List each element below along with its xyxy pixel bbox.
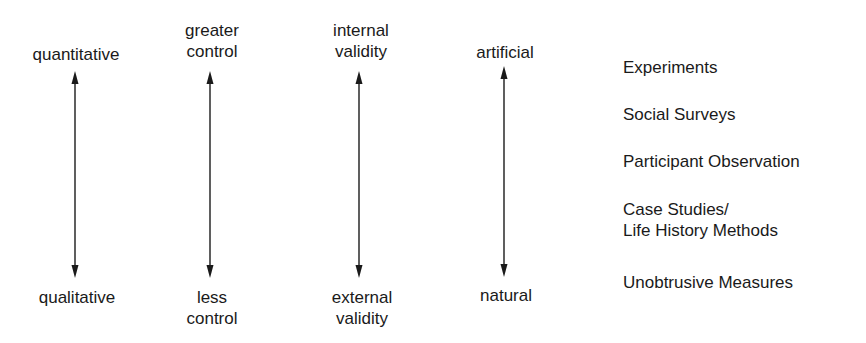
double-arrow-icon [354,71,364,278]
dimension-bottom-external-validity: external validity [332,287,392,329]
label-text: external [332,287,392,308]
method-social-surveys: Social Surveys [623,104,735,125]
label-text: control [185,41,239,62]
dimension-bottom-natural: natural [480,285,532,306]
label-text: qualitative [39,287,116,308]
label-text: internal [333,20,389,41]
method-text: Participant Observation [623,151,800,172]
dimension-top-internal-validity: internal validity [333,20,389,62]
method-text: Life History Methods [623,220,778,241]
double-arrow-icon [499,66,509,277]
label-text: greater [185,20,239,41]
dimension-bottom-qualitative: qualitative [39,287,116,308]
dimension-top-greater-control: greater control [185,20,239,62]
label-text: quantitative [33,44,120,65]
method-text: Experiments [623,57,717,78]
method-case-studies: Case Studies/ Life History Methods [623,199,778,241]
method-unobtrusive-measures: Unobtrusive Measures [623,272,793,293]
label-text: validity [332,308,392,329]
dimension-top-quantitative: quantitative [33,44,120,65]
label-text: validity [333,41,389,62]
method-experiments: Experiments [623,57,717,78]
label-text: less [186,287,237,308]
label-text: control [186,308,237,329]
method-text: Case Studies/ [623,199,778,220]
label-text: artificial [476,42,534,63]
dimension-top-artificial: artificial [476,42,534,63]
dimension-bottom-less-control: less control [186,287,237,329]
method-text: Social Surveys [623,104,735,125]
method-text: Unobtrusive Measures [623,272,793,293]
method-participant-observation: Participant Observation [623,151,800,172]
double-arrow-icon [205,71,215,278]
label-text: natural [480,285,532,306]
double-arrow-icon [70,71,80,278]
